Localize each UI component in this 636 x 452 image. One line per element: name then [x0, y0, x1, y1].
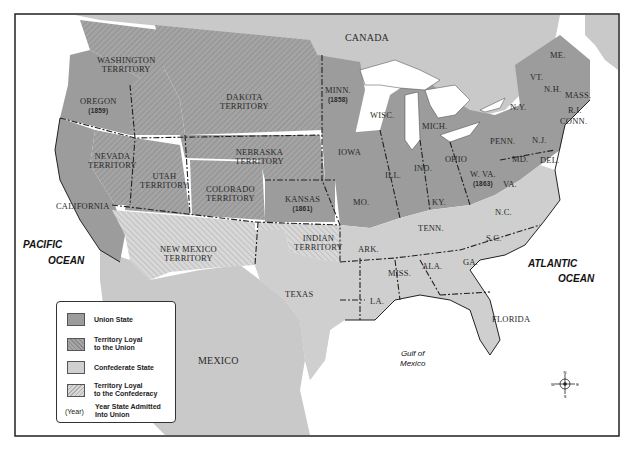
label-new-mexico-territory: NEW MEXICOTERRITORY [160, 245, 217, 263]
svg-text:E: E [576, 382, 579, 387]
label-canada: CANADA [345, 33, 389, 42]
label-minnesota: MINN.(1858) [325, 86, 351, 104]
label-south-carolina: S.C. [486, 234, 501, 243]
gulf-line-1: Gulf of [401, 349, 425, 358]
lake-michigan [405, 92, 420, 150]
label-utah-territory: UTAHTERRITORY [140, 172, 189, 190]
label-colorado-territory: COLORADOTERRITORY [206, 185, 255, 203]
label-nevada-territory: NEVADATERRITORY [88, 152, 137, 170]
legend-item-confederate-state: Confederate State [67, 361, 154, 374]
label-mexico: MEXICO [198, 356, 239, 365]
label-mississippi: MISS. [388, 269, 411, 278]
label-california: CALIFORNIA [56, 202, 109, 211]
label-west-virginia: W. VA.(1863) [470, 170, 496, 188]
label-washington-territory: WASHINGTONTERRITORY [97, 56, 156, 74]
label-north-carolina: N.C. [495, 208, 512, 217]
label-missouri: MO. [353, 198, 369, 207]
legend-item-union-state: Union State [67, 313, 133, 326]
label-indian-territory: INDIANTERRITORY [294, 234, 343, 252]
label-dakota-territory: DAKOTATERRITORY [220, 93, 269, 111]
legend-item-territory-confederacy: Territory Loyalto the Confederacy [67, 382, 157, 398]
label-vermont: VT. [530, 73, 543, 82]
label-nebraska-territory: NEBRASKATERRITORY [235, 148, 284, 166]
label-atlantic-1: ATLANTIC [528, 258, 577, 269]
label-pennsylvania: PENN. [490, 137, 515, 146]
label-virginia: VA. [503, 180, 517, 189]
label-indiana: IND. [414, 164, 432, 173]
label-texas: TEXAS [285, 290, 313, 299]
label-tennessee: TENN. [418, 224, 444, 233]
swatch-confederate-state [67, 361, 85, 374]
svg-text:N: N [564, 370, 567, 375]
label-kentucky: KY. [432, 198, 446, 207]
label-new-jersey: N.J. [532, 136, 547, 145]
svg-text:S: S [564, 394, 567, 398]
label-florida: FLORIDA [492, 315, 530, 324]
swatch-union-state [67, 313, 85, 326]
legend-item-territory-union: Territory Loyalto the Union [67, 336, 143, 352]
year-marker: (Year) [65, 408, 91, 415]
label-maryland: MD. [512, 155, 528, 164]
label-connecticut: CONN. [560, 117, 587, 126]
legend-item-year: (Year) Year State AdmittedInto Union [65, 403, 161, 419]
label-oregon: OREGON(1859) [80, 97, 117, 115]
label-louisiana: LA. [370, 297, 384, 306]
label-rhode-island: R.I. [568, 106, 582, 115]
label-delaware: DEL. [540, 156, 559, 165]
map-legend: Union State Territory Loyalto the Union … [56, 301, 176, 423]
label-michigan: MICH. [422, 122, 447, 131]
label-georgia: GA. [463, 258, 478, 267]
label-ohio: OHIO [445, 155, 467, 164]
swatch-territory-union [67, 338, 85, 351]
label-gulf-of-mexico: Gulf of Mexico [400, 349, 425, 369]
swatch-territory-confederacy [67, 384, 85, 397]
label-pacific-1: PACIFIC [23, 239, 62, 250]
label-maine: ME. [550, 51, 565, 60]
label-new-york: N.Y. [510, 103, 526, 112]
label-massachusetts: MASS. [565, 91, 591, 100]
label-kansas: KANSAS(1861) [285, 195, 320, 213]
label-atlantic-2: OCEAN [558, 273, 594, 284]
label-illinois: ILL. [385, 171, 401, 180]
label-iowa: IOWA [338, 148, 361, 157]
compass-rose-icon: N S E W [551, 370, 579, 398]
label-wisconsin: WISC. [370, 111, 394, 120]
label-alabama: ALA. [422, 262, 442, 271]
label-pacific-2: OCEAN [48, 255, 84, 266]
label-arkansas: ARK. [358, 245, 379, 254]
label-new-hampshire: N.H. [544, 85, 561, 94]
gulf-line-2: Mexico [400, 359, 425, 368]
svg-text:W: W [551, 382, 555, 387]
